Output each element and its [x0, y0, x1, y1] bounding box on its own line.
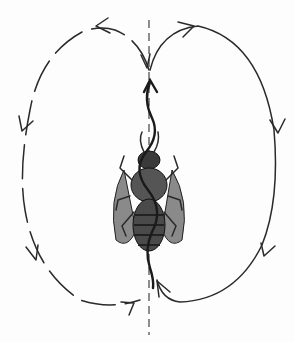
left-return-loop	[22, 28, 149, 305]
waggle-dance-diagram	[0, 0, 294, 342]
right-return-loop	[150, 26, 276, 302]
arrowhead-icon	[96, 18, 110, 33]
arrowhead-icon	[261, 243, 275, 256]
diagram-svg	[0, 0, 294, 342]
arrowhead-icon	[178, 22, 194, 37]
